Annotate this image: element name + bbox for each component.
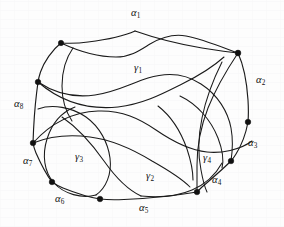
alpha-1-label: α1	[131, 8, 140, 20]
alpha-7-label: α7	[23, 156, 32, 168]
alpha-3-subscript: 3	[254, 142, 258, 150]
edge-alpha-1-right	[135, 31, 238, 53]
alpha-6-subscript: 6	[61, 198, 65, 206]
gamma-2-subscript: 2	[150, 175, 154, 183]
v-left-lower	[30, 140, 36, 146]
gamma-2-label: γ2	[146, 171, 154, 183]
alpha-4-subscript: 4	[218, 179, 222, 187]
alpha-7-base: α	[23, 155, 29, 166]
v-bottom-right	[194, 189, 200, 195]
curve-gamma1-inner-top	[61, 35, 238, 57]
alpha-4-base: α	[212, 174, 218, 185]
alpha-5-base: α	[139, 202, 145, 213]
diagram-canvas	[0, 0, 284, 227]
curve-gamma2-left-wall	[62, 117, 141, 196]
edge-alpha-2	[238, 53, 248, 122]
curve-gamma4-inner	[158, 106, 193, 180]
edge-alpha-8	[33, 82, 38, 143]
edge-alpha-3	[231, 122, 248, 161]
gamma-4-label: γ4	[203, 153, 211, 165]
v-bottom-mid	[97, 196, 103, 202]
curve-gamma1-lower-boundary	[38, 57, 224, 108]
alpha-1-subscript: 1	[137, 12, 141, 20]
alpha-6-label: α6	[55, 194, 64, 206]
curve-gamma4-loop	[180, 96, 223, 168]
alpha-3-base: α	[248, 137, 254, 148]
alpha-6-base: α	[55, 193, 61, 204]
gamma-1-label: γ1	[134, 63, 142, 75]
curve-left-sweep-low	[33, 136, 190, 187]
alpha-2-subscript: 2	[262, 79, 266, 87]
alpha-5-label: α5	[139, 203, 148, 215]
gamma-1-subscript: 1	[138, 67, 142, 75]
v-right-lower	[228, 158, 234, 164]
alpha-3-label: α3	[248, 138, 257, 150]
v-right-upper	[245, 119, 251, 125]
alpha-8-base: α	[14, 98, 20, 109]
v-bottom-left	[49, 179, 55, 185]
gamma-3-subscript: 3	[79, 156, 83, 164]
gamma-4-subscript: 4	[207, 157, 211, 165]
gamma-3-label: γ3	[75, 152, 83, 164]
alpha-4-label: α4	[212, 175, 221, 187]
v-top-left	[58, 40, 63, 45]
curve-right-cross-a	[197, 53, 238, 192]
v-left-upper	[35, 79, 41, 85]
curve-midband	[33, 111, 252, 152]
edge-alpha-1-left	[61, 31, 135, 43]
alpha-7-subscript: 7	[29, 160, 33, 168]
alpha-5-subscript: 5	[145, 207, 149, 215]
v-top-right	[235, 50, 241, 56]
alpha-2-label: α2	[256, 75, 265, 87]
curve-diagram-figure: α1α2α3α4α5α6α7α8 γ1γ2γ3γ4	[0, 0, 284, 227]
alpha-1-base: α	[131, 7, 137, 18]
alpha-8-label: α8	[14, 99, 23, 111]
alpha-8-subscript: 8	[20, 103, 24, 111]
alpha-2-base: α	[256, 74, 262, 85]
edge-top-left-to-left-upper	[38, 43, 61, 82]
